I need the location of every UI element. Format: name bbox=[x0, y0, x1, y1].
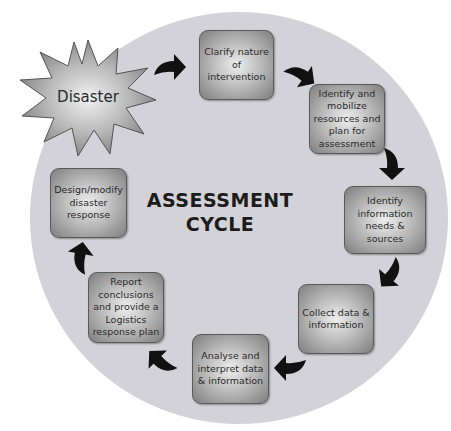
step-label: Identify and mobilize resources and plan… bbox=[312, 88, 382, 151]
curved-arrow-icon bbox=[152, 53, 188, 85]
title-line-2: CYCLE bbox=[140, 212, 300, 236]
curved-arrow-icon bbox=[272, 350, 308, 382]
step-identify-mobilize: Identify and mobilize resources and plan… bbox=[309, 84, 385, 154]
step-label: Report conclusions and provide a Logisti… bbox=[91, 276, 161, 339]
step-label: Identify information needs & sources bbox=[347, 195, 423, 245]
step-report-conclusions: Report conclusions and provide a Logisti… bbox=[88, 272, 164, 343]
diagram-title: ASSESSMENT CYCLE bbox=[140, 188, 300, 236]
disaster-label: Disaster bbox=[18, 88, 158, 106]
step-label: Clarify nature of intervention bbox=[202, 46, 271, 84]
step-label: Collect data & information bbox=[301, 307, 371, 332]
title-line-1: ASSESSMENT bbox=[140, 188, 300, 212]
step-collect-data: Collect data & information bbox=[298, 284, 374, 354]
step-design-modify: Design/modify disaster response bbox=[50, 168, 127, 238]
curved-arrow-icon bbox=[63, 237, 101, 278]
step-label: Design/modify disaster response bbox=[53, 184, 124, 222]
step-label: Analyse and interpret data & information bbox=[195, 350, 266, 388]
curved-arrow-icon bbox=[374, 146, 406, 182]
step-identify-information: Identify information needs & sources bbox=[344, 186, 426, 254]
step-clarify-nature: Clarify nature of intervention bbox=[199, 30, 274, 100]
step-analyse-interpret: Analyse and interpret data & information bbox=[192, 334, 269, 404]
